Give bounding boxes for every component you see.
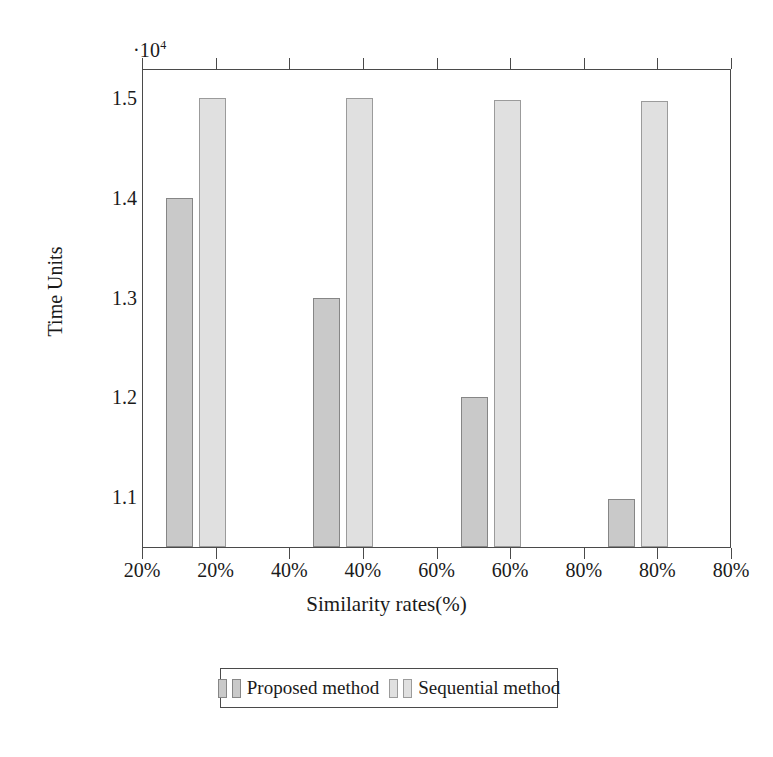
plot-area (142, 69, 731, 548)
bar (166, 198, 193, 547)
x-axis-tick-mark (731, 548, 732, 559)
y-axis-tick-label: 1.1 (112, 487, 137, 507)
x-axis-tick-mark-top (584, 58, 585, 69)
legend-swatch-icon (389, 679, 398, 698)
x-axis-tick-mark-top (510, 58, 511, 69)
y-axis-exponent-base: ·10 (133, 39, 160, 61)
bar (494, 100, 521, 547)
x-axis-tick-mark-top (731, 58, 732, 69)
legend-label-proposed: Proposed method (245, 677, 379, 699)
x-axis-tick-mark (216, 548, 217, 559)
x-axis-tick-mark-top (363, 58, 364, 69)
legend-swatch-group-sequential (389, 679, 412, 698)
x-axis-tick-mark (510, 548, 511, 559)
x-axis-tick-mark (142, 548, 143, 559)
x-axis-tick-label: 20% (124, 560, 161, 580)
legend-entry-sequential: Sequential method (389, 677, 560, 699)
x-axis-tick-mark-top (142, 58, 143, 69)
x-axis-tick-mark (363, 548, 364, 559)
x-axis-tick-mark (437, 548, 438, 559)
y-axis-exponent-label: ·104 (133, 38, 166, 62)
x-axis-tick-mark (657, 548, 658, 559)
legend-swatch-group-proposed (218, 679, 241, 698)
legend-label-sequential: Sequential method (416, 677, 560, 699)
x-axis-tick-label: 20% (197, 560, 234, 580)
x-axis-tick-label: 60% (418, 560, 455, 580)
bar (608, 499, 635, 547)
y-axis-title: Time Units (44, 212, 67, 372)
y-axis-tick-label: 1.2 (112, 387, 137, 407)
legend-entry-proposed: Proposed method (218, 677, 379, 699)
y-axis-tick-label: 1.3 (112, 288, 137, 308)
x-axis-tick-mark-top (216, 58, 217, 69)
x-axis-tick-label: 60% (492, 560, 529, 580)
legend-swatch-icon (218, 679, 227, 698)
bars-layer (143, 70, 730, 547)
bar-chart-figure: ·104 Time Units Similarity rates(%) 1.51… (0, 0, 773, 757)
x-axis-tick-label: 40% (345, 560, 382, 580)
bar (461, 397, 488, 547)
bar (641, 101, 668, 547)
x-axis-tick-mark-top (657, 58, 658, 69)
legend-swatch-icon (403, 679, 412, 698)
x-axis-tick-mark-top (289, 58, 290, 69)
y-axis-exponent-power: 4 (160, 38, 166, 52)
x-axis-tick-label: 80% (565, 560, 602, 580)
x-axis-tick-mark (584, 548, 585, 559)
chart-legend: Proposed method Sequential method (220, 668, 558, 708)
y-axis-tick-label: 1.4 (112, 188, 137, 208)
x-axis-title: Similarity rates(%) (0, 592, 773, 617)
bar (199, 98, 226, 547)
bar (313, 298, 340, 547)
bar (346, 98, 373, 547)
x-axis-tick-label: 80% (713, 560, 750, 580)
x-axis-tick-label: 80% (639, 560, 676, 580)
legend-swatch-icon (232, 679, 241, 698)
x-axis-tick-mark-top (437, 58, 438, 69)
x-axis-tick-label: 40% (271, 560, 308, 580)
x-axis-tick-mark (289, 548, 290, 559)
y-axis-tick-label: 1.5 (112, 88, 137, 108)
